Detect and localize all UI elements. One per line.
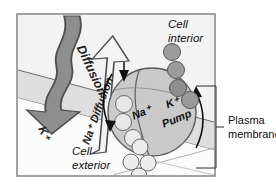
diagram-canvas: Diffusion K⁺ Na⁺ Diffusion Na⁺ K⁺ Pump <box>0 0 276 188</box>
exterior-ion-2 <box>123 154 139 170</box>
sodium-potassium-pump: Na⁺ K⁺ Pump <box>108 66 196 158</box>
plasma-membrane-label-line2: membrane <box>228 128 276 140</box>
cell-exterior-line2: exterior <box>72 159 112 171</box>
exterior-ion-1 <box>132 139 148 155</box>
interior-ion-1 <box>164 44 181 61</box>
cell-interior-line1: Cell <box>168 18 188 30</box>
pump-ion-2 <box>115 114 132 131</box>
interior-ion-2 <box>168 62 185 79</box>
cell-exterior-line1: Cell <box>72 145 92 157</box>
cell-interior-line2: interior <box>168 32 204 44</box>
cell-membrane-diagram: Diffusion K⁺ Na⁺ Diffusion Na⁺ K⁺ Pump <box>0 0 276 188</box>
interior-ion-4 <box>182 92 199 109</box>
plasma-membrane-label-line1: Plasma <box>228 114 266 126</box>
